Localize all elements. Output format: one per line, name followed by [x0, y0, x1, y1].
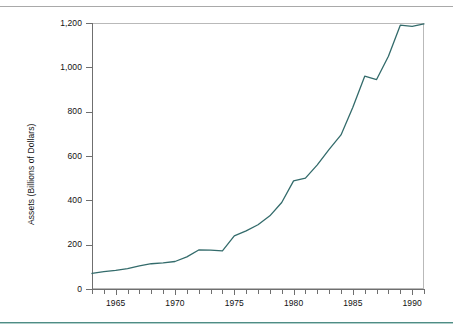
- bottom-divider-rule-shadow: [0, 323, 453, 324]
- assets-line-series: [92, 24, 424, 274]
- chart-page: Assets (Billions of Dollars) 02004006008…: [0, 0, 453, 333]
- series-layer: [0, 0, 453, 333]
- line-chart-figure: Assets (Billions of Dollars) 02004006008…: [0, 0, 453, 333]
